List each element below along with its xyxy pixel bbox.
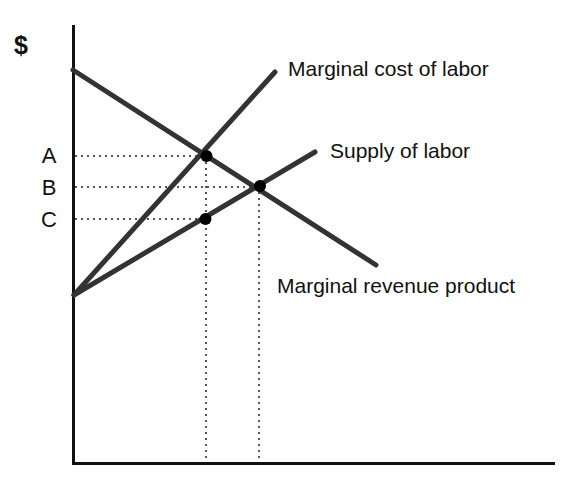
tick-label-c: C	[36, 209, 62, 231]
labor-market-chart: $ A B C Marginal cost of labor Supply of…	[0, 0, 588, 493]
supply-of-labor-label: Supply of labor	[330, 139, 470, 162]
marginal-revenue-product-label: Marginal revenue product	[277, 274, 515, 297]
marginal-revenue-product-curve	[73, 70, 376, 265]
tick-label-a: A	[36, 145, 62, 167]
point-a-marker	[201, 150, 213, 162]
point-b-marker	[254, 180, 266, 192]
point-c-marker	[200, 213, 212, 225]
marginal-cost-of-labor-label: Marginal cost of labor	[288, 57, 489, 80]
y-axis-dollar-label: $	[14, 33, 28, 58]
tick-label-b: B	[36, 177, 62, 199]
